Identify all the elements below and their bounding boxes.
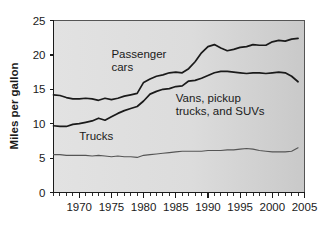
y-tick-label-0: 0 (39, 187, 45, 199)
x-tick-label-2000: 2000 (260, 201, 286, 213)
annotation-line-2: cars (111, 61, 133, 73)
x-tick-label-2005: 2005 (292, 201, 318, 213)
x-tick-label-1980: 1980 (131, 201, 157, 213)
annotation-line-1: Trucks (79, 130, 113, 142)
y-tick-label-20: 20 (33, 49, 46, 61)
chart-canvas: 0510152025 Miles per gallon 197019751980… (0, 0, 331, 230)
x-tick-label-1985: 1985 (163, 201, 189, 213)
y-tick-label-25: 25 (33, 15, 46, 27)
y-tick-label-5: 5 (39, 152, 45, 164)
y-tick-label-15: 15 (33, 83, 46, 95)
annotation-line-1: Vans, pickup (176, 92, 241, 104)
annotation-line-1: Passenger (111, 48, 166, 60)
series-annotation-2: Trucks (79, 130, 113, 142)
y-tick-label-10: 10 (33, 118, 46, 130)
x-tick-label-1970: 1970 (66, 201, 92, 213)
fuel-economy-chart: 0510152025 Miles per gallon 197019751980… (0, 0, 331, 230)
annotation-line-2: trucks, and SUVs (176, 105, 265, 117)
x-tick-label-1990: 1990 (195, 201, 221, 213)
x-tick-label-1975: 1975 (99, 201, 125, 213)
y-axis-title: Miles per gallon (8, 63, 20, 150)
x-tick-label-1995: 1995 (227, 201, 253, 213)
